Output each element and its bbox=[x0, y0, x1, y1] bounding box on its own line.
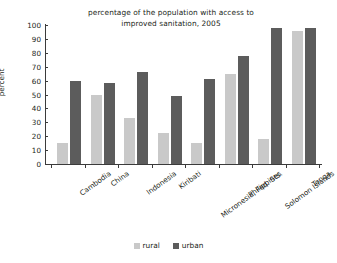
y-axis-tick-label: 20 bbox=[21, 132, 41, 141]
x-axis-tick-mark bbox=[118, 165, 119, 168]
bar-rural bbox=[292, 31, 303, 164]
bar-rural bbox=[191, 143, 202, 164]
x-axis-tick-mark bbox=[185, 165, 186, 168]
x-axis-tick-label: China bbox=[108, 169, 130, 188]
bar-rural bbox=[124, 118, 135, 164]
bar-group bbox=[223, 25, 257, 164]
x-axis-tick-mark bbox=[51, 165, 52, 168]
bar-rural bbox=[57, 143, 68, 164]
legend-label-urban: urban bbox=[182, 241, 204, 250]
legend-item-urban: urban bbox=[173, 241, 204, 250]
bar-rural bbox=[225, 74, 236, 164]
y-axis-tick-label: 70 bbox=[21, 62, 41, 71]
bar-rural bbox=[91, 95, 102, 165]
y-axis-tick-label: 40 bbox=[21, 104, 41, 113]
x-axis-tick-mark bbox=[319, 165, 320, 168]
bar-group bbox=[55, 25, 89, 164]
x-axis-tick-label: Philippines bbox=[246, 169, 283, 199]
y-axis-tick-labels: 1009080706050403020100 bbox=[19, 0, 41, 263]
bar-urban bbox=[70, 81, 81, 164]
x-axis-tick-label: Indonesia bbox=[145, 169, 178, 197]
bar-urban bbox=[171, 96, 182, 164]
y-axis-tick-label: 30 bbox=[21, 118, 41, 127]
chart-title-line-1: percentage of the population with access… bbox=[46, 8, 296, 19]
x-axis-line bbox=[45, 164, 322, 165]
bar-urban bbox=[137, 72, 148, 164]
legend-label-rural: rural bbox=[143, 241, 160, 250]
bar-group bbox=[156, 25, 190, 164]
x-axis-tick-label: Kiribati bbox=[176, 169, 202, 191]
legend-swatch-rural bbox=[134, 243, 140, 249]
bar-group bbox=[122, 25, 156, 164]
y-axis-tick-label: 10 bbox=[21, 146, 41, 155]
legend-swatch-urban bbox=[173, 243, 179, 249]
bar-urban bbox=[204, 79, 215, 164]
y-axis-tick-label: 90 bbox=[21, 34, 41, 43]
x-axis-tick-mark bbox=[152, 165, 153, 168]
x-axis-tick-mark bbox=[219, 165, 220, 168]
legend-item-rural: rural bbox=[134, 241, 160, 250]
bar-urban bbox=[305, 28, 316, 164]
bar-group bbox=[189, 25, 223, 164]
chart-legend: ruralurban bbox=[0, 241, 337, 250]
bar-urban bbox=[238, 56, 249, 164]
y-axis-tick-label: 80 bbox=[21, 48, 41, 57]
bar-urban bbox=[104, 83, 115, 164]
x-axis-tick-mark bbox=[252, 165, 253, 168]
bar-group bbox=[89, 25, 123, 164]
bar-group bbox=[290, 25, 324, 164]
y-axis-tick-label: 0 bbox=[21, 160, 41, 169]
y-axis-title: percent bbox=[0, 69, 6, 97]
plot-area bbox=[45, 25, 321, 164]
x-axis-tick-mark bbox=[85, 165, 86, 168]
bar-rural bbox=[158, 133, 169, 164]
y-axis-tick-label: 100 bbox=[21, 21, 41, 30]
bar-rural bbox=[258, 139, 269, 164]
bar-urban bbox=[271, 28, 282, 164]
y-axis-tick-label: 60 bbox=[21, 76, 41, 85]
bar-group bbox=[256, 25, 290, 164]
x-axis-tick-mark bbox=[286, 165, 287, 168]
y-axis-tick-label: 50 bbox=[21, 90, 41, 99]
x-axis-tick-label: Cambodia bbox=[78, 169, 113, 198]
chart-figure: percentage of the population with access… bbox=[0, 0, 337, 263]
